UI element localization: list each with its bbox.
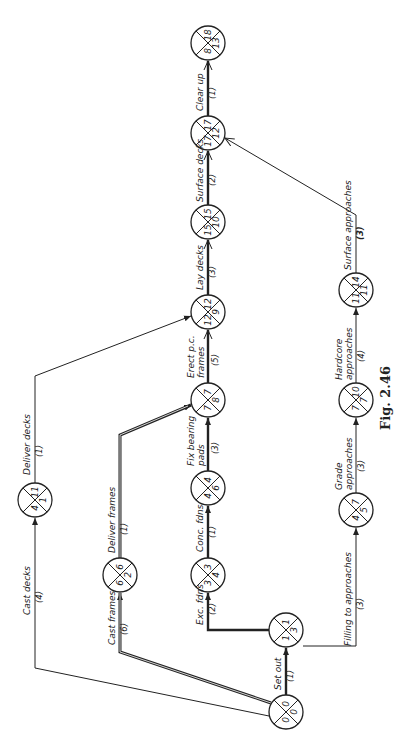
node-value-right: 1 <box>38 497 48 503</box>
node-value-bottom: 4 <box>351 515 361 521</box>
node-value-right: 13 <box>211 37 221 49</box>
duration-lay-decks: (3) <box>207 266 217 278</box>
node-value-right: 8 <box>211 397 221 403</box>
node-value-right: 5 <box>359 507 369 513</box>
node-value-top: 10 <box>351 386 361 398</box>
label-conc-fdns: Conc. fdns <box>195 504 205 552</box>
event-node: 12912 <box>191 295 225 329</box>
duration-deliver-decks: (1) <box>34 445 44 457</box>
label-deliver-frames: Deliver frames <box>107 486 117 553</box>
node-value-bottom: 4 <box>30 505 40 511</box>
duration-surface-approaches: (3) <box>355 226 365 240</box>
node-value-top: 7 <box>351 499 361 505</box>
duration-deliver-frames: (1) <box>119 523 129 535</box>
node-value-top: 1 <box>281 619 291 625</box>
node-value-top: 7 <box>203 389 213 395</box>
label-surface-decks: Surface decks <box>195 138 205 202</box>
node-value-top: 4 <box>203 477 213 483</box>
arrow-surface-approaches <box>225 138 356 273</box>
event-node: 626 <box>103 558 137 592</box>
node-value-right: 4 <box>211 572 221 578</box>
label-hardcore-approaches: Hardcore <box>334 338 344 380</box>
label-lay-decks: Lay decks <box>195 245 205 290</box>
label-cast-frames: Cast frames <box>107 590 117 645</box>
label-clear-up: Clear up <box>195 73 205 111</box>
label-surface-approaches: Surface approaches <box>343 180 353 270</box>
arrow-cast-decks <box>35 518 269 716</box>
arrow-exc-fdns <box>208 593 269 630</box>
node-value-top: 0 <box>281 701 291 707</box>
node-value-top: 6 <box>115 564 125 570</box>
event-node: 464 <box>191 471 225 505</box>
arrow-deliver-frames <box>120 405 191 558</box>
figure-caption: Fig. 2.46 <box>378 366 393 430</box>
node-value-right: 7 <box>359 397 369 403</box>
node-value-bottom: 7 <box>351 405 361 411</box>
duration-grade-approaches: (3) <box>356 460 366 472</box>
duration-hardcore-approaches: (4) <box>356 350 366 362</box>
network-diagram: 0001316261114343464787129121510151712171… <box>0 0 411 745</box>
node-value-bottom: 7 <box>203 405 213 411</box>
node-value-bottom: 4 <box>203 493 213 499</box>
node-value-top: 11 <box>30 486 40 497</box>
event-node: 1077 <box>339 383 373 417</box>
label-cast-decks: Cast decks <box>22 566 32 615</box>
label-erect-pc-frames-2: frames <box>196 346 206 378</box>
duration-cast-frames: (6) <box>119 623 129 635</box>
node-value-bottom: 15 <box>203 224 213 236</box>
node-value-right: 9 <box>211 309 221 315</box>
duration-clear-up: (1) <box>207 87 217 99</box>
node-value-bottom: 11 <box>351 292 361 303</box>
node-value-bottom: 6 <box>115 580 125 586</box>
event-node: 000 <box>269 695 303 729</box>
event-node: 141111 <box>339 273 373 307</box>
event-node: 18138 <box>191 26 225 60</box>
node-value-bottom: 1 <box>281 635 291 641</box>
label-grade-approaches: Grade <box>334 462 344 490</box>
arrow-deliver-decks <box>35 316 191 483</box>
label-exc-fdns: Exc. fdns <box>195 584 205 625</box>
duration-exc-fdns: (2) <box>207 603 217 615</box>
duration-set-out: (1) <box>285 670 295 682</box>
duration-filling-to-approaches: (3) <box>355 598 365 610</box>
node-value-bottom: 8 <box>203 48 213 54</box>
label-hardcore-approaches-2: approaches <box>344 327 354 380</box>
node-value-right: 2 <box>123 572 133 578</box>
event-node: 131 <box>269 613 303 647</box>
event-node: 151015 <box>191 205 225 239</box>
duration-cast-decks: (4) <box>34 591 44 603</box>
duration-surface-decks: (2) <box>207 174 217 186</box>
event-node: 1114 <box>18 483 52 517</box>
label-fix-bearing-pads: Fix bearing <box>186 415 196 466</box>
label-filling-to-approaches: Filling to approaches <box>343 552 353 646</box>
node-value-right: 3 <box>289 627 299 633</box>
label-set-out: Set out <box>273 657 283 690</box>
node-value-top: 12 <box>203 298 213 310</box>
label-fix-bearing-pads-2: pads <box>196 444 206 467</box>
node-value-bottom: 0 <box>281 717 291 723</box>
node-value-right: 0 <box>289 709 299 715</box>
duration-fix-bearing-pads: (3) <box>210 442 220 454</box>
activity-labels: Set out (1) Exc. fdns (2) Conc. fdns (1)… <box>22 73 366 690</box>
label-deliver-decks: Deliver decks <box>22 414 32 475</box>
node-value-bottom: 12 <box>203 314 213 326</box>
label-grade-approaches-2: approaches <box>344 437 354 490</box>
duration-conc-fdns: (1) <box>207 526 217 538</box>
event-node: 754 <box>339 493 373 527</box>
node-value-right: 6 <box>211 485 221 491</box>
duration-erect-pc-frames: (5) <box>210 354 220 366</box>
event-node: 787 <box>191 383 225 417</box>
label-erect-pc-frames: Erect p.c. <box>186 335 196 378</box>
node-value-top: 3 <box>203 564 213 570</box>
